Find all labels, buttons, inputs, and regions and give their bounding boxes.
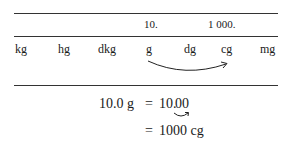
equation-result: 1000 cg: [159, 123, 204, 139]
equals-sign-2: =: [145, 123, 153, 139]
